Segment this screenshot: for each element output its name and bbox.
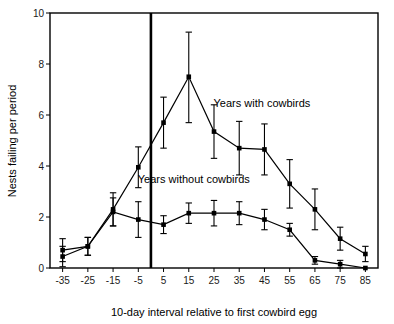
data-point-marker	[136, 165, 141, 170]
series-years-with-cowbirds	[59, 32, 368, 262]
chart-figure: Nests failing per period 10 8 6 4 2 0 -3…	[0, 0, 394, 324]
x-tick-label: 85	[360, 275, 372, 286]
data-point-marker	[86, 244, 91, 249]
data-point-marker	[60, 254, 65, 259]
series-years-without-cowbirds	[59, 198, 367, 270]
y-tick-label: 4	[38, 161, 44, 172]
data-point-marker	[212, 129, 217, 134]
data-point-marker	[338, 262, 343, 267]
x-tick-label: 75	[335, 275, 347, 286]
data-point-marker	[287, 182, 292, 187]
y-tick-label: 10	[33, 8, 45, 19]
data-point-marker	[136, 217, 141, 222]
data-point-marker	[287, 227, 292, 232]
x-axis-title: 10-day interval relative to first cowbir…	[111, 306, 317, 318]
data-point-marker	[186, 211, 191, 216]
x-tick-label: 65	[309, 275, 321, 286]
data-point-marker	[186, 74, 191, 79]
x-tick-label: 5	[161, 275, 167, 286]
x-tick-label: 55	[284, 275, 296, 286]
y-axis-tick-labels: 10 8 6 4 2 0	[33, 8, 45, 274]
x-tick-label: -15	[106, 275, 121, 286]
data-point-marker	[111, 210, 116, 215]
x-tick-label: -5	[134, 275, 143, 286]
x-tick-label: 15	[183, 275, 195, 286]
x-tick-label: 25	[208, 275, 220, 286]
data-point-marker	[313, 207, 318, 212]
data-point-marker	[363, 252, 368, 257]
data-point-marker	[161, 120, 166, 125]
data-point-marker	[262, 147, 267, 152]
x-tick-label: 45	[259, 275, 271, 286]
nests-failing-line-chart: Nests failing per period 10 8 6 4 2 0 -3…	[0, 0, 394, 324]
x-tick-label: -35	[55, 275, 70, 286]
data-point-marker	[338, 236, 343, 241]
y-tick-label: 2	[38, 212, 44, 223]
data-point-marker	[363, 266, 368, 271]
y-tick-label: 0	[38, 263, 44, 274]
data-point-marker	[237, 211, 242, 216]
data-point-marker	[262, 217, 267, 222]
data-point-marker	[212, 211, 217, 216]
data-point-marker	[237, 146, 242, 151]
annotation-years-with-cowbirds: Years with cowbirds	[214, 97, 311, 109]
x-axis: -35-25-15-551525354555657585	[55, 268, 371, 286]
data-point-marker	[313, 258, 318, 263]
x-tick-label: -25	[81, 275, 96, 286]
x-tick-label: 35	[234, 275, 246, 286]
annotation-years-without-cowbirds: Years without cowbirds	[138, 173, 251, 185]
y-tick-label: 8	[38, 59, 44, 70]
data-point-marker	[161, 222, 166, 227]
y-axis-title: Nests failing per period	[6, 85, 18, 198]
y-tick-label: 6	[38, 110, 44, 121]
